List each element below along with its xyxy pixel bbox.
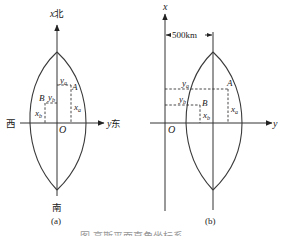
yb-label-b: yb <box>178 94 186 105</box>
point-b-label-b: B <box>202 98 208 108</box>
yb-label: yb <box>47 92 55 103</box>
origin-label: O <box>59 124 66 135</box>
panel-b-label: (b) <box>205 216 216 226</box>
figure-b: x 500km y O ya A xa yb B <box>150 1 278 226</box>
point-a-label: A <box>71 82 78 92</box>
point-b-label: B <box>39 93 45 103</box>
zone-left-boundary <box>30 52 57 190</box>
west-label: 西 <box>6 118 16 129</box>
x-axis-label: x北 <box>49 8 64 19</box>
xb-label: xb <box>34 108 42 119</box>
xa-label: xa <box>73 102 81 113</box>
zone-right-boundary-b <box>213 52 242 190</box>
offset-label: 500km <box>172 30 197 40</box>
ya-label-b: ya <box>181 78 189 89</box>
figure-a: x北 西 y东 O ya A xa B yb xb 南 (a) <box>6 8 121 226</box>
x-axis-label-b: x <box>162 1 168 12</box>
xb-label-b: xb <box>202 110 210 121</box>
origin-label-b: O <box>168 124 175 135</box>
coordinate-diagram: x北 西 y东 O ya A xa B yb xb 南 (a) <box>0 0 281 236</box>
xa-label-b: xa <box>230 104 238 115</box>
panel-a-label: (a) <box>51 216 61 226</box>
y-axis-label-b: y <box>272 118 278 129</box>
ya-label: ya <box>59 75 67 86</box>
south-label: 南 <box>52 202 62 213</box>
zone-right-boundary <box>57 52 86 190</box>
zone-left-boundary-b <box>186 52 213 190</box>
figure-caption: 图 高斯平面直角坐标系 <box>80 230 183 236</box>
point-a-label-b: A <box>226 78 233 88</box>
y-axis-label: y东 <box>106 118 121 129</box>
